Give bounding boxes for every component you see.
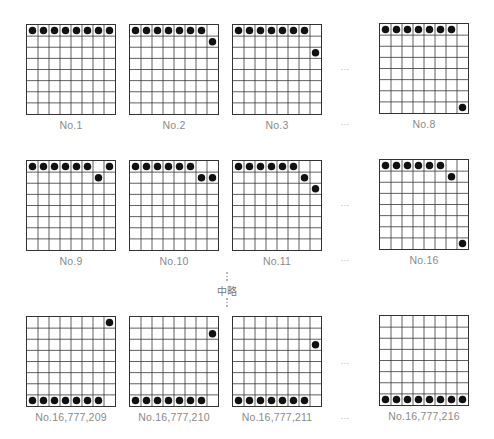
- board-label: No.11: [217, 255, 337, 267]
- ellipsis-icon: …: [335, 356, 355, 366]
- stone-icon: [154, 163, 161, 171]
- stone-icon: [235, 27, 242, 35]
- stone-icon: [154, 397, 161, 405]
- stone-icon: [246, 163, 253, 171]
- stone-icon: [235, 397, 242, 405]
- stone-icon: [257, 27, 264, 35]
- stone-icon: [143, 27, 150, 35]
- stone-icon: [404, 396, 411, 404]
- stone-icon: [209, 174, 216, 182]
- ellipsis-icon: …: [335, 198, 355, 208]
- stone-icon: [448, 173, 455, 181]
- stone-icon: [209, 38, 216, 46]
- stone-icon: [143, 163, 150, 171]
- stone-icon: [29, 163, 36, 171]
- stone-icon: [279, 27, 286, 35]
- board-grid: [129, 316, 219, 407]
- board-grid: [26, 316, 116, 407]
- stone-icon: [51, 27, 58, 35]
- stone-icon: [62, 27, 69, 35]
- ellipsis-icon: …: [335, 411, 355, 421]
- stone-icon: [209, 330, 216, 338]
- stone-icon: [198, 397, 205, 405]
- board-label: No.2: [114, 119, 234, 131]
- stone-icon: [404, 162, 411, 170]
- stone-icon: [40, 163, 47, 171]
- stone-icon: [268, 397, 275, 405]
- board-grid: [232, 160, 322, 251]
- ellipsis-icon: …: [335, 62, 355, 72]
- stone-icon: [459, 240, 466, 248]
- stone-icon: [393, 26, 400, 34]
- stone-icon: [51, 397, 58, 405]
- stone-icon: [426, 162, 433, 170]
- stone-icon: [290, 163, 297, 171]
- board-label: No.16,777,216: [364, 410, 484, 422]
- stone-icon: [448, 396, 455, 404]
- stone-icon: [187, 397, 194, 405]
- stone-icon: [84, 163, 91, 171]
- stone-icon: [132, 163, 139, 171]
- stone-icon: [312, 185, 319, 193]
- vertical-ellipsis-bottom: [226, 298, 228, 309]
- stone-icon: [459, 104, 466, 112]
- stone-icon: [165, 163, 172, 171]
- stone-icon: [301, 397, 308, 405]
- stone-icon: [132, 27, 139, 35]
- stone-icon: [73, 27, 80, 35]
- stone-icon: [198, 174, 205, 182]
- board-label: No.3: [217, 119, 337, 131]
- stone-icon: [382, 26, 389, 34]
- stone-icon: [84, 397, 91, 405]
- ellipsis-icon: …: [335, 117, 355, 127]
- vertical-ellipsis-top: [226, 272, 228, 283]
- stone-icon: [393, 396, 400, 404]
- stone-icon: [382, 396, 389, 404]
- stone-icon: [73, 397, 80, 405]
- stone-icon: [437, 396, 444, 404]
- board-label: No.1: [11, 119, 131, 131]
- stone-icon: [95, 27, 102, 35]
- stone-icon: [246, 397, 253, 405]
- stone-icon: [437, 162, 444, 170]
- stone-icon: [268, 163, 275, 171]
- stone-icon: [301, 174, 308, 182]
- stone-icon: [459, 396, 466, 404]
- stone-icon: [84, 27, 91, 35]
- stone-icon: [382, 162, 389, 170]
- board-label: No.16,777,211: [217, 411, 337, 423]
- stone-icon: [132, 397, 139, 405]
- stone-icon: [73, 163, 80, 171]
- board-label: No.9: [11, 255, 131, 267]
- board-label: No.16: [364, 254, 484, 266]
- board-grid: [129, 24, 219, 115]
- board-label: No.8: [364, 118, 484, 130]
- stone-icon: [40, 27, 47, 35]
- stone-icon: [290, 397, 297, 405]
- stone-icon: [448, 26, 455, 34]
- stone-icon: [198, 27, 205, 35]
- board-grid: [129, 160, 219, 251]
- stone-icon: [301, 27, 308, 35]
- stone-icon: [235, 163, 242, 171]
- stone-icon: [246, 27, 253, 35]
- stone-icon: [312, 341, 319, 349]
- ellipsis-icon: …: [335, 253, 355, 263]
- stone-icon: [426, 26, 433, 34]
- stone-icon: [51, 163, 58, 171]
- stone-icon: [415, 396, 422, 404]
- board-grid: [232, 316, 322, 407]
- stone-icon: [393, 162, 400, 170]
- stone-icon: [312, 49, 319, 57]
- stone-icon: [176, 163, 183, 171]
- stone-icon: [257, 397, 264, 405]
- stone-icon: [29, 397, 36, 405]
- stone-icon: [268, 27, 275, 35]
- stone-icon: [165, 397, 172, 405]
- stone-icon: [437, 26, 444, 34]
- stone-icon: [95, 397, 102, 405]
- board-grid: [232, 24, 322, 115]
- board-label: No.10: [114, 255, 234, 267]
- stone-icon: [279, 397, 286, 405]
- stone-icon: [106, 27, 113, 35]
